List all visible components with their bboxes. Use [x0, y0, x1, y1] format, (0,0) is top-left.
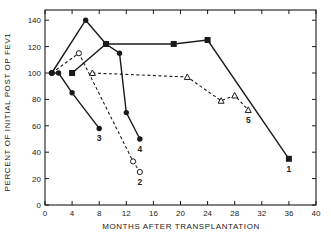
series-1: 1	[69, 37, 292, 174]
triangle-marker	[184, 74, 190, 80]
series-4: 4	[49, 18, 142, 155]
y-tick-label: 80	[32, 95, 41, 104]
x-axis-label: MONTHS AFTER TRANSPLANTATION	[102, 222, 260, 231]
square-marker	[69, 70, 75, 76]
series-3: 3	[49, 70, 102, 143]
open-circle-marker	[130, 159, 135, 164]
open-circle-marker	[76, 51, 81, 56]
data-series: 12345	[49, 18, 292, 188]
x-axis-ticks: 0481216202428323640	[43, 10, 321, 218]
x-tick-label: 8	[97, 209, 102, 218]
fev1-line-chart: 0481216202428323640 020406080100120140 1…	[0, 0, 331, 238]
series-number-label: 4	[137, 144, 142, 154]
dot-marker	[56, 70, 61, 75]
open-circle-marker	[137, 169, 142, 174]
x-tick-label: 40	[312, 209, 321, 218]
dot-marker	[83, 18, 88, 23]
x-tick-label: 24	[203, 209, 212, 218]
x-tick-label: 16	[149, 209, 158, 218]
y-tick-label: 100	[28, 69, 42, 78]
dot-marker	[117, 51, 122, 56]
square-marker	[171, 41, 177, 47]
dot-marker	[69, 90, 74, 95]
series-5: 5	[89, 70, 251, 125]
triangle-marker	[232, 92, 238, 98]
series-number-label: 2	[137, 177, 142, 187]
y-tick-label: 20	[32, 175, 41, 184]
series-2: 2	[49, 51, 142, 187]
x-tick-label: 0	[43, 209, 48, 218]
y-tick-label: 140	[28, 16, 42, 25]
chart-canvas: 0481216202428323640 020406080100120140 1…	[0, 0, 331, 238]
x-tick-label: 4	[70, 209, 75, 218]
y-tick-label: 60	[32, 122, 41, 131]
y-axis-label: PERCENT OF INITIAL POST OP FEV1	[3, 33, 12, 192]
dot-marker	[103, 41, 108, 46]
y-tick-label: 40	[32, 148, 41, 157]
y-tick-label: 120	[28, 43, 42, 52]
x-tick-label: 20	[176, 209, 185, 218]
dot-marker	[49, 70, 54, 75]
square-marker	[205, 37, 211, 43]
series-number-label: 5	[246, 115, 251, 125]
x-tick-label: 12	[122, 209, 131, 218]
x-tick-label: 28	[230, 209, 239, 218]
dot-marker	[124, 110, 129, 115]
dot-marker	[137, 136, 142, 141]
x-tick-label: 32	[257, 209, 266, 218]
x-tick-label: 36	[284, 209, 293, 218]
square-marker	[286, 156, 292, 162]
dot-marker	[97, 126, 102, 131]
plot-frame	[45, 10, 316, 205]
series-number-label: 1	[287, 164, 292, 174]
series-number-label: 3	[97, 133, 102, 143]
y-tick-label: 0	[37, 201, 42, 210]
